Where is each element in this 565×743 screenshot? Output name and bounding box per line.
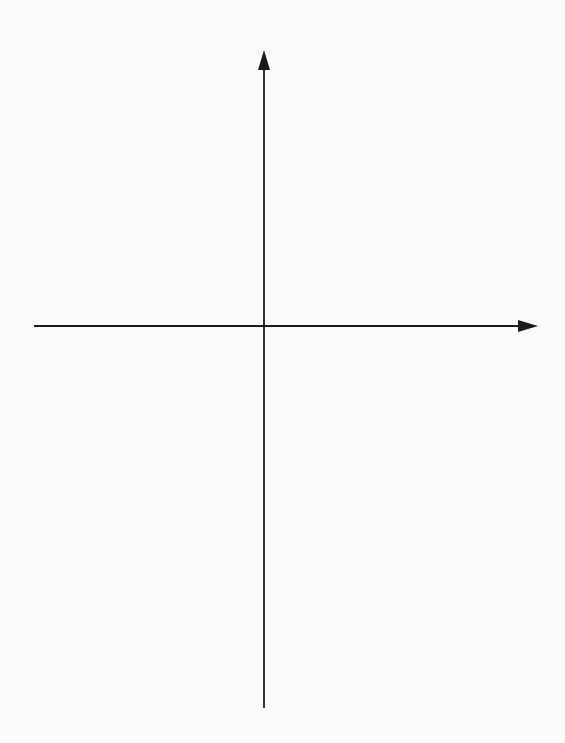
x-axis-arrow-icon [518,320,538,332]
y-axis-arrow-icon [258,50,270,70]
coordinate-plot [0,0,565,743]
